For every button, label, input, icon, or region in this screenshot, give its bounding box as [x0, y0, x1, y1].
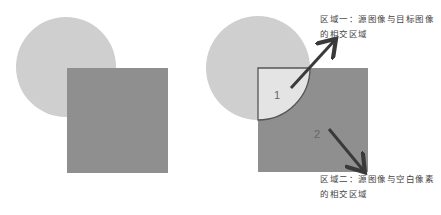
region-2-label: 2: [314, 128, 320, 140]
annotation-region-1-line1: 区域一：源图像与目标图像: [320, 12, 434, 27]
left-figure: [16, 17, 168, 173]
target-square: [67, 68, 168, 173]
region-1-label: 1: [274, 89, 280, 101]
annotation-region-1-line2: 的相交区域: [320, 27, 434, 42]
annotation-region-2-line1: 区域二：源图像与空白像素: [320, 172, 434, 187]
annotation-region-2-line2: 的相交区域: [320, 187, 434, 202]
annotation-region-2: 区域二：源图像与空白像素 的相交区域: [320, 172, 434, 202]
annotation-region-1: 区域一：源图像与目标图像 的相交区域: [320, 12, 434, 42]
